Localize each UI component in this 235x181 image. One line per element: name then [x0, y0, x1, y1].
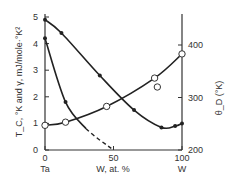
x-axis-label: W, at. %: [96, 164, 130, 174]
x-tick-label: 100: [174, 153, 189, 163]
axes-frame: [45, 14, 182, 150]
x-right-end-label: W: [178, 164, 187, 174]
Tc-line: [45, 38, 86, 128]
y-left-tick-label: 2: [33, 92, 38, 102]
filled-circle-marker: [43, 18, 47, 22]
open-circle-marker: [151, 75, 157, 81]
y-right-tick-label: 400: [188, 40, 203, 50]
open-circle-marker: [103, 103, 109, 109]
filled-circle-marker: [43, 36, 47, 40]
y-left-tick-label: 5: [33, 12, 38, 22]
y-left-tick-label: 4: [33, 39, 38, 49]
y-left-tick-label: 3: [33, 65, 38, 75]
filled-circle-marker: [64, 100, 68, 104]
x-left-end-label: Ta: [40, 164, 50, 174]
filled-circle-marker: [173, 124, 177, 128]
filled-circle-marker: [98, 74, 102, 78]
filled-circle-marker: [59, 31, 63, 35]
series-lines: [42, 18, 185, 150]
Tc-dashed-extrapolation: [86, 129, 113, 150]
y-left-tick-label: 1: [33, 118, 38, 128]
open-circle-marker: [179, 51, 185, 57]
chart-svg: 012345200300400050100 W, at. % Ta W T_C,…: [0, 0, 235, 181]
filled-circle-marker: [132, 108, 136, 112]
y-left-tick-label: 0: [33, 145, 38, 155]
gamma-line: [45, 20, 182, 129]
open-circle-marker: [62, 119, 68, 125]
tick-labels: 012345200300400050100: [33, 12, 203, 163]
y-left-axis-label: T_C, °K and γ, mJ/mole·°K²: [14, 27, 24, 138]
open-circle-marker: [42, 122, 48, 128]
filled-circle-marker: [159, 125, 163, 129]
x-tick-label: 0: [42, 153, 47, 163]
filled-circle-marker: [180, 121, 184, 125]
chart: 012345200300400050100 W, at. % Ta W T_C,…: [0, 0, 235, 181]
y-right-tick-label: 300: [188, 93, 203, 103]
open-circle-marker: [154, 84, 160, 90]
y-right-tick-label: 200: [188, 145, 203, 155]
x-tick-label: 50: [108, 153, 118, 163]
y-right-axis-label: θ_D (°K): [214, 81, 224, 116]
